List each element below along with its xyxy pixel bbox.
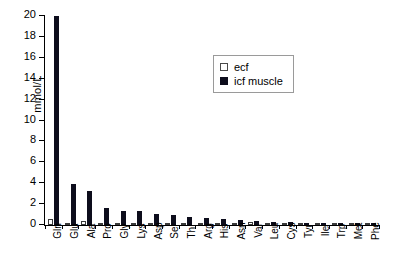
bar-group <box>245 16 262 225</box>
bar-group <box>346 16 363 225</box>
x-axis-label-cell: Gln <box>44 231 61 262</box>
x-axis-label-cell: Ala <box>77 231 94 262</box>
y-axis-tick-label: 0 <box>30 217 36 230</box>
x-axis-label-cell: Asn <box>228 231 245 262</box>
bar-group <box>45 16 62 225</box>
bar-group <box>296 16 313 225</box>
bar-group <box>195 16 212 225</box>
bar-group <box>145 16 162 225</box>
legend-label-icf-muscle: icf muscle <box>234 75 283 87</box>
y-axis-tick-label: 2 <box>30 196 36 209</box>
x-axis-label-cell: Gly <box>111 231 128 262</box>
x-axis-label-cell: Trp <box>328 231 345 262</box>
x-axis-label-cell: Ile <box>311 231 328 262</box>
y-axis-tick-label: 20 <box>24 8 36 21</box>
x-axis-label-cell: Pro <box>94 231 111 262</box>
bar-glu-icf <box>71 184 76 225</box>
legend-swatch-open-square-icon <box>220 63 228 71</box>
y-axis-tick-label: 14 <box>24 71 36 84</box>
y-axis-tick-label: 10 <box>24 113 36 126</box>
bar-group <box>329 16 346 225</box>
bar-group <box>129 16 146 225</box>
bar-group <box>78 16 95 225</box>
bar-group <box>229 16 246 225</box>
bar-group <box>362 16 379 225</box>
x-axis-label-cell: Phe <box>361 231 378 262</box>
x-axis-labels: GlnGluAlaProGlyLysAspSerThrArgHisAsnValL… <box>44 231 378 262</box>
bar-group <box>162 16 179 225</box>
bar-group <box>262 16 279 225</box>
x-axis-label-cell: Asp <box>144 231 161 262</box>
y-axis-tick-label: 8 <box>30 133 36 146</box>
x-axis-label-cell: Tyr <box>295 231 312 262</box>
x-axis-label-cell: Thr <box>178 231 195 262</box>
bar-group <box>179 16 196 225</box>
legend-swatch-filled-square-icon <box>220 77 228 85</box>
bar-gln-icf <box>54 16 59 225</box>
x-axis-label-cell: Cys <box>278 231 295 262</box>
bar-group <box>112 16 129 225</box>
bar-ala-icf <box>87 191 92 225</box>
legend-item-icf-muscle: icf muscle <box>220 74 283 88</box>
x-axis-label-cell: Leu <box>261 231 278 262</box>
y-axis-tick-label: 16 <box>24 50 36 63</box>
x-axis-tick <box>45 225 46 229</box>
legend-label-ecf: ecf <box>234 61 249 73</box>
x-axis-label-cell: His <box>211 231 228 262</box>
x-axis-label-cell: Val <box>244 231 261 262</box>
plot-area: 02468101214161820 <box>44 16 379 226</box>
legend: ecf icf muscle <box>213 55 294 93</box>
x-axis-label-cell: Lys <box>128 231 145 262</box>
y-axis-tick-label: 12 <box>24 92 36 105</box>
y-axis-tick-label: 4 <box>30 175 36 188</box>
x-axis-label-phe: Phe <box>370 222 381 240</box>
bar-group <box>312 16 329 225</box>
y-axis-tick-label: 6 <box>30 154 36 167</box>
bar-group <box>95 16 112 225</box>
x-axis-label-cell: Ser <box>161 231 178 262</box>
legend-item-ecf: ecf <box>220 60 283 74</box>
y-axis-tick-label: 18 <box>24 29 36 42</box>
bars-layer <box>45 16 379 225</box>
x-axis-label-cell: Glu <box>61 231 78 262</box>
x-axis-label-cell: Arg <box>194 231 211 262</box>
x-axis-label-cell: Met <box>345 231 362 262</box>
amino-acid-concentration-bar-chart: mmol/L 02468101214161820 GlnGluAlaProGly… <box>0 0 396 262</box>
bar-group <box>279 16 296 225</box>
bar-group <box>62 16 79 225</box>
bar-group <box>212 16 229 225</box>
